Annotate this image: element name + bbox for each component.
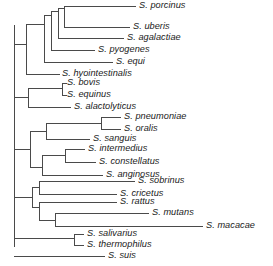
tip-label-constellatus: S. constellatus [99, 157, 160, 166]
tip-label-pyogenes: S. pyogenes [98, 45, 150, 54]
tip-label-sobrinus: S. sobrinus [138, 176, 185, 185]
tip-label-sanguis: S. sanguis [93, 134, 136, 143]
tip-label-rattus: S. rattus [120, 197, 155, 206]
tip-label-suis: S. suis [108, 251, 136, 260]
tip-label-thermophilus: S. thermophilus [87, 240, 152, 249]
tip-label-equi: S. equi [116, 57, 145, 66]
tip-label-porcinus: S. porcinus [139, 1, 186, 10]
tip-label-intermedius: S. intermedius [88, 144, 147, 153]
phylogenetic-tree-figure: S. porcinus S. uberis S. agalactiae S. p… [0, 0, 273, 266]
tip-label-alactolyticus: S. alactolyticus [74, 102, 136, 111]
tip-label-mutans: S. mutans [152, 208, 194, 217]
tip-label-pneumoniae: S. pneumoniae [124, 112, 186, 121]
tip-label-macacae: S. macacae [206, 221, 255, 230]
tip-label-uberis: S. uberis [133, 22, 170, 31]
tip-label-oralis: S. oralis [124, 124, 158, 133]
tip-label-salivarius: S. salivarius [87, 229, 137, 238]
tip-label-bovis: S. bovis [67, 78, 100, 87]
tip-label-equinus: S. equinus [67, 90, 111, 99]
tip-label-agalactiae: S. agalactiae [127, 33, 181, 42]
